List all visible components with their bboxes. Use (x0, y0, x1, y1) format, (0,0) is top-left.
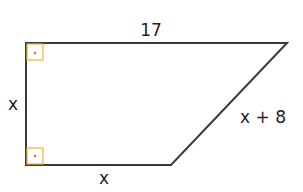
trapezoid-diagram: 17 x x x + 8 (0, 0, 303, 192)
trapezoid-shape (26, 43, 287, 165)
bottom-side-label: x (99, 168, 109, 188)
slant-side-label: x + 8 (240, 107, 286, 127)
left-side-label: x (8, 94, 18, 114)
top-side-label: 17 (140, 20, 162, 40)
right-angle-marker-top-left (27, 44, 43, 60)
right-angle-marker-bottom-left (27, 148, 43, 164)
